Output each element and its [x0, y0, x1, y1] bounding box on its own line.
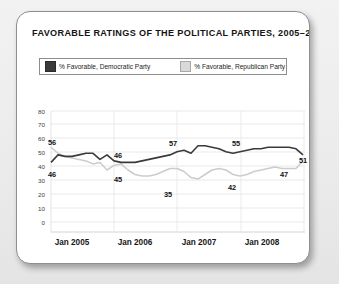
xtick-label-jan-2006: Jan 2006 — [100, 238, 170, 247]
plot-svg — [17, 12, 310, 264]
ytick-label-10: 10 — [31, 205, 45, 212]
point-label-republican-45: 45 — [114, 175, 122, 184]
plot-area: 80 70 60 50 40 30 20 10 0 Jan 2005 Jan 2… — [17, 12, 310, 264]
ytick-label-40: 40 — [31, 163, 45, 170]
ytick-label-0: 0 — [31, 219, 45, 226]
point-label-democratic-55: 55 — [232, 139, 240, 148]
point-label-democratic-46: 46 — [48, 170, 56, 179]
ytick-label-30: 30 — [31, 177, 45, 184]
ytick-label-60: 60 — [31, 135, 45, 142]
point-label-democratic-46b: 46 — [114, 151, 122, 160]
xtick-label-jan-2008: Jan 2008 — [227, 238, 297, 247]
point-label-republican-56: 56 — [48, 138, 56, 147]
point-label-republican-47: 47 — [280, 170, 288, 179]
point-label-republican-42: 42 — [228, 183, 236, 192]
ytick-label-20: 20 — [31, 191, 45, 198]
point-label-democratic-57: 57 — [169, 139, 177, 148]
point-label-republican-35: 35 — [164, 190, 172, 199]
xtick-label-jan-2007: Jan 2007 — [164, 238, 234, 247]
vertical-gridlines — [51, 111, 304, 232]
ytick-label-50: 50 — [31, 149, 45, 156]
ytick-label-70: 70 — [31, 121, 45, 128]
chart-card: FAVORABLE RATINGS OF THE POLITICAL PARTI… — [16, 11, 310, 264]
ytick-label-80: 80 — [31, 108, 45, 115]
point-label-democratic-51: 51 — [299, 156, 307, 165]
xtick-label-jan-2005: Jan 2005 — [37, 238, 107, 247]
gridlines — [51, 111, 305, 232]
page-background: FAVORABLE RATINGS OF THE POLITICAL PARTI… — [0, 0, 339, 284]
